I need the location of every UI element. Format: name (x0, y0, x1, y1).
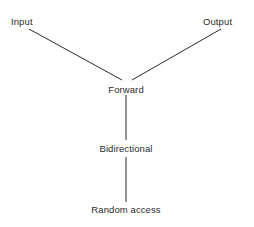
edge-output-to-forward (132, 29, 221, 80)
node-random-access: Random access (91, 204, 160, 215)
node-forward: Forward (108, 84, 144, 95)
node-input: Input (11, 16, 33, 27)
node-bidirectional: Bidirectional (99, 143, 152, 154)
node-output: Output (203, 16, 232, 27)
iterator-hierarchy-diagram: Input Output Forward Bidirectional Rando… (0, 0, 254, 227)
diagram-edge-layer (0, 0, 254, 227)
edge-input-to-forward (29, 29, 122, 80)
